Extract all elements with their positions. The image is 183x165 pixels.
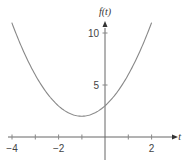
x-tick-label-2: 2 bbox=[149, 143, 155, 154]
parabola-curve bbox=[12, 23, 152, 117]
y-axis-arrow-icon bbox=[103, 21, 108, 27]
y-tick-label-10: 10 bbox=[88, 28, 100, 39]
x-tick-label-neg2: −2 bbox=[53, 143, 65, 154]
parabola-chart: −4 −2 2 5 10 f(t) t bbox=[0, 0, 183, 165]
x-axis-label: t bbox=[178, 131, 181, 142]
x-tick-label-neg4: −4 bbox=[6, 143, 18, 154]
y-tick-label-5: 5 bbox=[93, 80, 99, 91]
y-axis-label: f(t) bbox=[99, 6, 112, 18]
x-axis-arrow-icon bbox=[172, 135, 178, 140]
